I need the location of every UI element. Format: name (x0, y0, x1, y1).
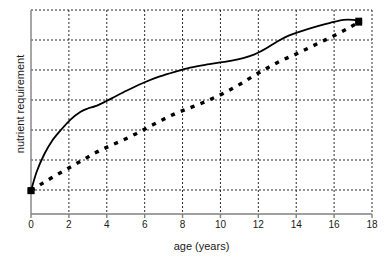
x-tick-label: 12 (248, 219, 268, 230)
x-tick-label: 6 (135, 219, 155, 230)
series-endpoint-marker (28, 187, 35, 194)
x-tick-label: 4 (97, 219, 117, 230)
x-tick-label: 14 (286, 219, 306, 230)
x-tick-label: 2 (59, 219, 79, 230)
nutrient-requirement-chart: nutrient requirement 024681012141618 age… (0, 0, 392, 262)
x-tick-label: 18 (362, 219, 382, 230)
x-tick-label: 10 (210, 219, 230, 230)
x-axis-label: age (years) (31, 240, 372, 252)
x-tick-label: 16 (324, 219, 344, 230)
series-line-solid-curve (31, 20, 359, 191)
x-tick-label: 8 (173, 219, 193, 230)
series-endpoint-marker (355, 19, 362, 26)
x-tick-label: 0 (21, 219, 41, 230)
series-line-dashed-curve (31, 22, 359, 190)
